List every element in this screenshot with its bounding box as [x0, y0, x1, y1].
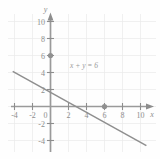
x-tick-label-10: 10	[137, 111, 145, 120]
x-tick-label-6: 6	[103, 111, 107, 120]
x-tick-label-8: 8	[121, 111, 125, 120]
y-axis	[48, 13, 54, 153]
x-tick-label-neg4: -4	[11, 111, 18, 120]
y-tick-label-10: 10	[37, 18, 45, 27]
y-axis-arrowhead	[48, 13, 54, 21]
y-tick-label-neg2: -2	[38, 120, 45, 129]
y-tick-label-4: 4	[41, 69, 45, 78]
y-axis-label: y	[43, 5, 48, 14]
marker-x-intercept	[102, 104, 107, 109]
x-axis-label: x	[149, 110, 154, 119]
graph-figure: 10 8 6 4 2 -2 -4 -4 -2 0 2 4 6 8 10 y x …	[0, 0, 160, 159]
coordinate-plane: 10 8 6 4 2 -2 -4 -4 -2 0 2 4 6 8 10 y x …	[0, 0, 160, 159]
x-tick-label-neg2: -2	[29, 111, 36, 120]
x-axis-arrowhead	[146, 104, 154, 110]
y-tick-label-6: 6	[41, 52, 45, 61]
marker-y-intercept	[48, 53, 53, 58]
x-tick-label-0: 0	[44, 111, 48, 120]
equation-annotation: x + y = 6	[69, 61, 98, 70]
y-tick-label-neg4: -4	[38, 137, 45, 146]
x-tick-label-2: 2	[67, 111, 71, 120]
y-tick-label-8: 8	[41, 35, 45, 44]
